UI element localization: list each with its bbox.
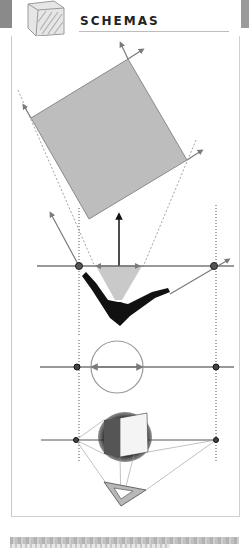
perspective-diagram	[0, 0, 249, 557]
footer-texture-strip-lower	[10, 544, 170, 548]
viewer-cone	[37, 214, 234, 326]
sketched-cube	[41, 412, 219, 506]
circle-horizon	[40, 341, 234, 393]
footer-texture-strip	[10, 537, 239, 544]
rotated-square	[24, 44, 201, 219]
